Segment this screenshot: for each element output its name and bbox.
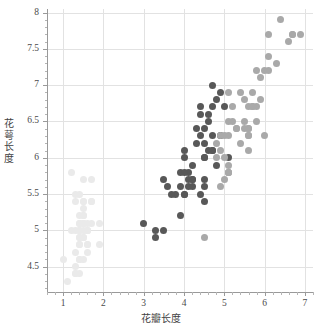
y-tick-minor bbox=[45, 209, 48, 210]
data-point-versicolor bbox=[168, 191, 175, 198]
data-point-setosa bbox=[60, 256, 67, 263]
data-point-versicolor bbox=[205, 111, 212, 118]
x-tick-minor bbox=[289, 292, 290, 295]
x-tick-minor bbox=[313, 292, 314, 295]
gridline-vertical bbox=[265, 9, 266, 292]
data-point-versicolor bbox=[201, 154, 208, 161]
data-point-setosa bbox=[76, 227, 83, 234]
data-point-virginica bbox=[229, 118, 236, 125]
x-tick-minor bbox=[249, 292, 250, 295]
y-tick-minor bbox=[45, 42, 48, 43]
y-tick-minor bbox=[45, 245, 48, 246]
y-tick-minor bbox=[45, 27, 48, 28]
x-tick-minor bbox=[71, 292, 72, 295]
x-tick-minor bbox=[273, 292, 274, 295]
x-tick-minor bbox=[128, 292, 129, 295]
y-tick-minor bbox=[45, 136, 48, 137]
data-point-setosa bbox=[72, 263, 79, 270]
data-point-virginica bbox=[213, 154, 220, 161]
data-point-versicolor bbox=[213, 96, 220, 103]
data-point-setosa bbox=[76, 256, 83, 263]
x-tick-major bbox=[144, 292, 145, 296]
x-tick-minor bbox=[87, 292, 88, 295]
y-tick-label: 6 bbox=[13, 152, 39, 162]
x-tick-label: 6 bbox=[255, 298, 275, 308]
gridline-horizontal bbox=[47, 158, 313, 159]
data-point-virginica bbox=[253, 118, 260, 125]
x-tick-label: 5 bbox=[214, 298, 234, 308]
data-point-versicolor bbox=[201, 183, 208, 190]
data-point-virginica bbox=[201, 234, 208, 241]
data-point-virginica bbox=[221, 176, 228, 183]
y-tick-minor bbox=[45, 180, 48, 181]
x-tick-label: 1 bbox=[53, 298, 73, 308]
data-point-versicolor bbox=[201, 140, 208, 147]
x-tick-label: 2 bbox=[93, 298, 113, 308]
data-point-virginica bbox=[225, 162, 232, 169]
data-point-versicolor bbox=[177, 183, 184, 190]
data-point-virginica bbox=[245, 147, 252, 154]
x-tick-major bbox=[224, 292, 225, 296]
data-point-versicolor bbox=[181, 147, 188, 154]
y-tick-minor bbox=[45, 165, 48, 166]
data-point-virginica bbox=[249, 89, 256, 96]
data-point-setosa bbox=[80, 176, 87, 183]
y-tick-minor bbox=[45, 172, 48, 173]
y-tick-minor bbox=[45, 56, 48, 57]
data-point-versicolor bbox=[193, 125, 200, 132]
scatter-chart-figure: 4.555.566.577.581234567 花 萼 长 度 花瓣长度 bbox=[0, 0, 322, 328]
y-tick-major bbox=[43, 13, 47, 14]
data-point-versicolor bbox=[197, 191, 204, 198]
y-tick-minor bbox=[45, 252, 48, 253]
y-tick-label: 5 bbox=[13, 224, 39, 234]
data-point-versicolor bbox=[197, 111, 204, 118]
y-tick-minor bbox=[45, 238, 48, 239]
data-point-virginica bbox=[213, 140, 220, 147]
x-tick-minor bbox=[79, 292, 80, 295]
data-point-setosa bbox=[68, 169, 75, 176]
data-point-versicolor bbox=[181, 191, 188, 198]
gridline-vertical bbox=[144, 9, 145, 292]
y-tick-minor bbox=[45, 78, 48, 79]
y-tick-label: 5.5 bbox=[13, 188, 39, 198]
x-axis-label: 花瓣长度 bbox=[0, 310, 322, 325]
y-tick-minor bbox=[45, 216, 48, 217]
x-tick-minor bbox=[281, 292, 282, 295]
data-point-versicolor bbox=[185, 176, 192, 183]
y-tick-minor bbox=[45, 114, 48, 115]
data-point-setosa bbox=[72, 198, 79, 205]
y-tick-label: 8 bbox=[13, 7, 39, 17]
x-tick-minor bbox=[297, 292, 298, 295]
y-tick-minor bbox=[45, 223, 48, 224]
x-tick-label: 7 bbox=[295, 298, 315, 308]
gridline-horizontal bbox=[47, 121, 313, 122]
y-tick-minor bbox=[45, 201, 48, 202]
y-tick-major bbox=[43, 158, 47, 159]
y-tick-minor bbox=[45, 100, 48, 101]
y-tick-major bbox=[43, 194, 47, 195]
y-tick-minor bbox=[45, 20, 48, 21]
x-tick-major bbox=[63, 292, 64, 296]
x-tick-major bbox=[265, 292, 266, 296]
y-axis-line bbox=[47, 9, 48, 293]
y-tick-label: 6.5 bbox=[13, 115, 39, 125]
data-point-versicolor bbox=[140, 220, 147, 227]
data-point-virginica bbox=[225, 169, 232, 176]
y-tick-major bbox=[43, 49, 47, 50]
y-tick-minor bbox=[45, 281, 48, 282]
data-point-versicolor bbox=[201, 125, 208, 132]
data-point-virginica bbox=[241, 118, 248, 125]
y-tick-minor bbox=[45, 274, 48, 275]
y-tick-minor bbox=[45, 151, 48, 152]
y-tick-major bbox=[43, 85, 47, 86]
x-tick-minor bbox=[208, 292, 209, 295]
x-tick-label: 3 bbox=[134, 298, 154, 308]
x-tick-minor bbox=[95, 292, 96, 295]
y-tick-minor bbox=[45, 92, 48, 93]
data-point-versicolor bbox=[189, 183, 196, 190]
y-tick-minor bbox=[45, 259, 48, 260]
data-point-setosa bbox=[88, 176, 95, 183]
x-tick-minor bbox=[47, 292, 48, 295]
data-point-versicolor bbox=[213, 162, 220, 169]
data-point-versicolor bbox=[201, 198, 208, 205]
